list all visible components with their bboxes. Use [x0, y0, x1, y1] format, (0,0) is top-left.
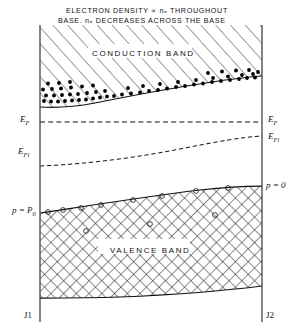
fermi-level-label-left: EF	[20, 114, 29, 126]
fermi-level-label-left-sub: F	[26, 119, 30, 126]
intrinsic-fermi-label-left: EFi	[18, 146, 29, 158]
hole-density-label-left-text: p = P	[12, 205, 33, 215]
intrinsic-fermi-label-left-sub: Fi	[24, 151, 30, 158]
valence-band-label: VALENCE BAND	[110, 246, 190, 255]
hole-density-label-right: p = 0	[266, 180, 286, 190]
intrinsic-fermi-label-right-sub: Fi	[274, 136, 280, 143]
fermi-level-label-right: EF	[268, 114, 277, 126]
hole-density-label-left-sub: 0	[33, 210, 36, 217]
intrinsic-fermi-level-line	[40, 136, 262, 166]
figure-title-line-1: ELECTRON DENSITY ∝ nₑ THROUGHOUT	[66, 6, 228, 15]
intrinsic-fermi-label-right: EFi	[268, 131, 279, 143]
hole-density-label-left: p = P0	[12, 205, 36, 217]
junction-label-j2: J2	[266, 310, 274, 320]
conduction-band-label: CONDUCTION BAND	[92, 49, 195, 58]
figure-title-line-2: BASE. nₑ DECREASES ACROSS THE BASE	[58, 16, 226, 25]
fermi-level-label-right-sub: F	[274, 119, 278, 126]
band-diagram-figure: ELECTRON DENSITY ∝ nₑ THROUGHOUT BASE. n…	[0, 0, 305, 332]
valence-band-region	[38, 180, 264, 302]
junction-label-j1: J1	[24, 310, 32, 320]
